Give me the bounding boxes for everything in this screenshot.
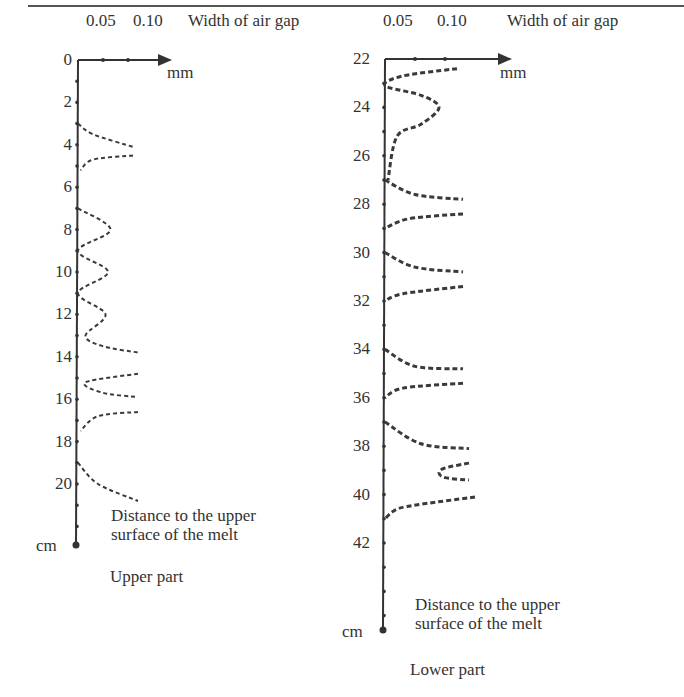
y-tick-mark bbox=[75, 101, 79, 105]
x-tick-mark bbox=[101, 58, 105, 62]
y-tick-mark bbox=[75, 228, 79, 232]
air-gap-curve bbox=[385, 349, 463, 368]
x-tick-mark bbox=[443, 57, 447, 61]
air-gap-curve bbox=[439, 463, 469, 480]
y-tick-mark bbox=[382, 299, 386, 303]
y-tick-mark bbox=[382, 614, 386, 618]
y-tick-mark bbox=[382, 541, 386, 545]
y-tick-mark bbox=[75, 355, 79, 359]
air-gap-curve bbox=[81, 412, 139, 431]
right-axes bbox=[380, 57, 511, 634]
y-axis-arrowhead bbox=[380, 627, 387, 634]
air-gap-curve bbox=[385, 253, 463, 272]
y-axis-arrowhead bbox=[73, 542, 80, 549]
y-tick-mark bbox=[382, 493, 386, 497]
y-tick-mark bbox=[75, 164, 79, 168]
y-tick-mark bbox=[382, 565, 386, 569]
y-tick-mark bbox=[75, 376, 79, 380]
y-tick-mark bbox=[382, 202, 386, 206]
y-tick-mark bbox=[382, 275, 386, 279]
y-tick-mark bbox=[382, 323, 386, 327]
y-tick-mark bbox=[382, 469, 386, 473]
right-curves bbox=[384, 69, 475, 519]
y-tick-mark bbox=[75, 482, 79, 486]
y-tick-mark bbox=[75, 79, 79, 83]
x-tick-mark bbox=[126, 58, 130, 62]
y-tick-mark bbox=[75, 525, 79, 529]
air-gap-curve bbox=[78, 208, 138, 352]
air-gap-curve bbox=[385, 383, 463, 398]
y-tick-mark bbox=[382, 154, 386, 158]
y-tick-mark bbox=[75, 313, 79, 317]
y-tick-mark bbox=[382, 130, 386, 134]
y-tick-mark bbox=[75, 397, 79, 401]
y-tick-mark bbox=[382, 517, 386, 521]
air-gap-curve bbox=[78, 124, 133, 147]
chart-plot-area bbox=[0, 0, 684, 697]
air-gap-curve bbox=[385, 214, 463, 229]
y-tick-mark bbox=[382, 590, 386, 594]
y-tick-mark bbox=[382, 444, 386, 448]
air-gap-curve bbox=[385, 497, 475, 519]
air-gap-curve bbox=[385, 422, 469, 449]
y-tick-mark bbox=[75, 270, 79, 274]
y-tick-mark bbox=[382, 106, 386, 110]
x-tick-mark bbox=[413, 57, 417, 61]
y-tick-mark bbox=[75, 334, 79, 338]
air-gap-curve bbox=[385, 180, 463, 199]
y-tick-mark bbox=[75, 143, 79, 147]
air-gap-curve bbox=[384, 69, 457, 180]
air-gap-curve bbox=[81, 155, 134, 170]
y-tick-mark bbox=[382, 372, 386, 376]
air-gap-curve bbox=[385, 286, 463, 301]
y-tick-mark bbox=[75, 419, 79, 423]
air-gap-curve bbox=[78, 463, 138, 501]
y-axis bbox=[76, 60, 78, 545]
y-tick-mark bbox=[382, 227, 386, 231]
y-tick-mark bbox=[75, 503, 79, 507]
air-gap-curve bbox=[84, 374, 138, 397]
left-curves bbox=[78, 124, 138, 501]
y-tick-mark bbox=[75, 185, 79, 189]
y-tick-mark bbox=[75, 440, 79, 444]
